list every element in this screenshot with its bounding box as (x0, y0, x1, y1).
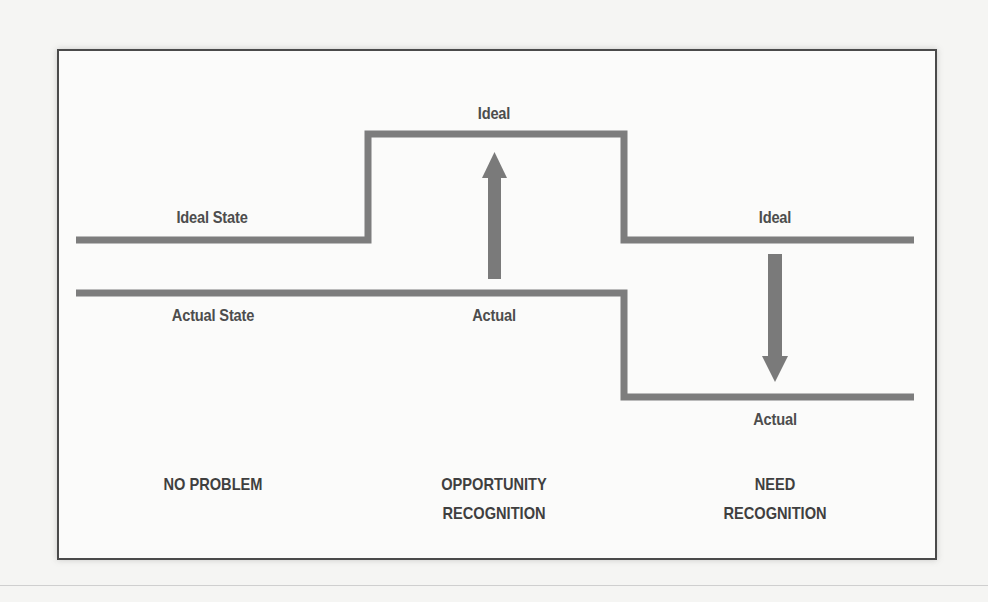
diagram-canvas: Ideal State Actual State Ideal Actual Id… (0, 0, 988, 602)
category-line: RECOGNITION (723, 499, 826, 528)
opportunity-actual-label: Actual (472, 306, 516, 326)
category-line: NEED (723, 470, 826, 499)
need-ideal-label: Ideal (759, 208, 791, 228)
opportunity-ideal-label: Ideal (478, 104, 510, 124)
category-need-recognition: NEED RECOGNITION (723, 470, 826, 528)
arrow-down-icon (762, 254, 788, 382)
category-line: OPPORTUNITY (441, 470, 547, 499)
actual-state-label: Actual State (172, 306, 254, 326)
category-opportunity-recognition: OPPORTUNITY RECOGNITION (441, 470, 547, 528)
need-actual-label: Actual (753, 410, 797, 430)
category-line: RECOGNITION (441, 499, 547, 528)
arrow-up-icon (482, 152, 507, 279)
category-line: NO PROBLEM (163, 470, 262, 499)
ideal-state-label: Ideal State (176, 208, 247, 228)
category-no-problem: NO PROBLEM (163, 470, 262, 499)
